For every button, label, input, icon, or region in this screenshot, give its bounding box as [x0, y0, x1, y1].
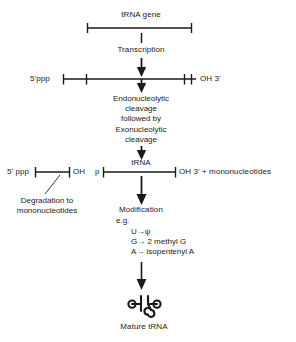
degradation-line-2: mononucleotides: [17, 206, 77, 216]
arrow-head: [136, 194, 146, 205]
arrow-transcription-to-precursor: [137, 58, 146, 77]
trna-gene-line-group: [87, 23, 192, 33]
degradation-leader-line: [45, 175, 60, 194]
cleavage-line-5: cleavage: [113, 135, 169, 145]
arrow-modification-to-mature: [137, 262, 147, 290]
modification-item-3: A→ isopentenyl A: [131, 247, 194, 257]
eg-label: e.g.: [116, 216, 129, 226]
fragment-5prime-label: 5' ppp: [7, 167, 29, 177]
degradation-line-1: Degradation to: [17, 196, 77, 206]
trna-3prime-label: OH 3' + mononucleotides: [179, 167, 271, 177]
cleavage-line-3: followed by: [113, 114, 169, 124]
fragment-oh-label: OH: [73, 167, 85, 177]
mature-trna-cloverleaf-icon: [128, 296, 160, 317]
cleavage-line-2: cleavage: [113, 104, 169, 114]
cloverleaf-anticodon-loop: [144, 308, 154, 317]
modification-item-2: G→ 2 methyl G: [131, 237, 194, 247]
trna-product-line-group: [103, 167, 176, 178]
arrow-trna-to-modification: [136, 176, 146, 205]
trna-p-label: p: [95, 167, 100, 177]
five-prime-fragment-line-group: [35, 167, 70, 194]
precursor-trna-line-group: [63, 74, 196, 85]
cleavage-line-4: Exonucleolytic: [113, 125, 169, 135]
trna-gene-label: tRNA gene: [121, 10, 161, 20]
precursor-3prime-label: OH 3': [200, 74, 221, 84]
modification-item-1: U→ψ: [131, 227, 194, 237]
precursor-5prime-label: 5'ppp: [30, 74, 50, 84]
trna-label: tRNA: [131, 158, 151, 168]
cleavage-line-1: Endonucleolytic: [113, 94, 169, 104]
transcription-label: Transcription: [117, 45, 164, 55]
mature-trna-label: Mature tRNA: [120, 322, 167, 332]
arrow-precursor-to-cleavage: [137, 79, 146, 93]
arrow-head: [137, 279, 147, 290]
arrow-head: [137, 67, 146, 77]
modification-label: Modification: [119, 205, 163, 215]
arrow-head: [137, 83, 146, 93]
